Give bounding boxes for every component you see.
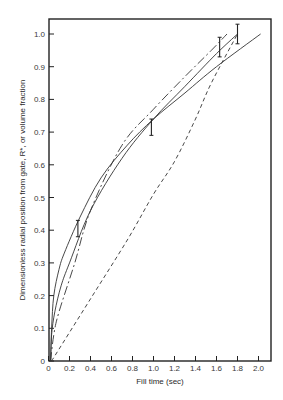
x-tick-label: 1.2 (169, 364, 181, 373)
series-line (51, 34, 227, 361)
series-line (51, 34, 238, 361)
y-tick-label: 0.7 (34, 128, 46, 137)
x-tick-label: 2.0 (253, 364, 265, 373)
y-tick-label: 1.0 (34, 30, 46, 39)
x-tick-label: 1.4 (190, 364, 202, 373)
series-line (52, 34, 238, 361)
y-axis-ticks: 00.10.20.30.40.50.60.70.80.91.0 (34, 30, 54, 366)
y-tick-label: 0.2 (34, 292, 46, 301)
y-tick-label: 0.4 (34, 226, 46, 235)
line-chart: 00.10.20.30.40.50.60.70.80.91.0 00.20.40… (0, 0, 283, 400)
y-tick-label: 0 (41, 357, 46, 366)
data-series (51, 34, 261, 361)
x-tick-label: 0.6 (106, 364, 118, 373)
x-tick-label: 1.8 (232, 364, 244, 373)
x-tick-label: 0 (46, 364, 51, 373)
x-tick-label: 0.8 (127, 364, 139, 373)
y-tick-label: 0.8 (34, 95, 46, 104)
x-tick-label: 1.6 (211, 364, 223, 373)
y-tick-label: 0.9 (34, 63, 46, 72)
y-tick-label: 0.1 (34, 324, 46, 333)
y-axis-label: Dimensionless radial position from gate,… (18, 80, 27, 301)
y-tick-label: 0.3 (34, 259, 46, 268)
x-tick-label: 1.0 (148, 364, 160, 373)
x-axis-ticks: 00.20.40.60.81.01.21.41.61.82.0 (46, 356, 264, 373)
y-tick-label: 0.5 (34, 194, 46, 203)
plot-frame (49, 19, 271, 361)
x-tick-label: 0.2 (64, 364, 76, 373)
x-tick-label: 0.4 (85, 364, 97, 373)
x-axis-label: Fill time (sec) (136, 377, 184, 386)
error-bars (76, 24, 240, 237)
y-tick-label: 0.6 (34, 161, 46, 170)
